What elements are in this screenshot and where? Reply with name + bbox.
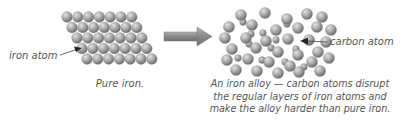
atom bbox=[82, 33, 93, 44]
atom bbox=[312, 46, 323, 57]
atom bbox=[121, 22, 132, 33]
atom bbox=[67, 22, 78, 33]
atom bbox=[103, 54, 114, 65]
atom bbox=[272, 67, 283, 78]
atom bbox=[114, 54, 125, 65]
atom bbox=[77, 22, 88, 33]
atom bbox=[316, 11, 327, 22]
atom bbox=[83, 12, 94, 23]
atom bbox=[146, 54, 157, 65]
atom bbox=[270, 24, 281, 35]
atom bbox=[281, 13, 292, 24]
atom bbox=[323, 52, 334, 63]
atom bbox=[88, 22, 99, 33]
iron-alloy-lattice bbox=[219, 7, 336, 78]
atom bbox=[314, 65, 325, 76]
atom bbox=[136, 33, 147, 44]
atom bbox=[251, 65, 262, 76]
iron-atom-label: iron atom bbox=[9, 50, 57, 62]
atom bbox=[87, 43, 98, 54]
atom bbox=[94, 12, 105, 23]
alloy-caption: An iron alloy — carbon atoms disrupt the… bbox=[203, 78, 397, 116]
atom bbox=[235, 55, 242, 62]
atom bbox=[125, 54, 136, 65]
atom bbox=[292, 49, 303, 60]
transition-arrow-icon bbox=[164, 27, 212, 46]
atom bbox=[126, 12, 137, 23]
atom bbox=[131, 22, 142, 33]
atom bbox=[98, 43, 109, 54]
atom bbox=[272, 46, 283, 57]
atom bbox=[120, 43, 131, 54]
atom bbox=[263, 56, 274, 67]
atom bbox=[105, 12, 116, 23]
carbon-atom-label: carbon atom bbox=[330, 36, 394, 48]
atom bbox=[259, 7, 270, 18]
atom bbox=[282, 33, 293, 44]
atom bbox=[306, 56, 317, 67]
atom bbox=[99, 22, 110, 33]
atom bbox=[116, 12, 127, 23]
pure-iron-lattice bbox=[62, 12, 158, 65]
atom bbox=[242, 53, 253, 64]
atom bbox=[72, 12, 83, 23]
atom bbox=[82, 54, 93, 65]
atom bbox=[126, 33, 137, 44]
atom bbox=[240, 32, 251, 43]
atom bbox=[136, 54, 147, 65]
atom bbox=[226, 43, 237, 54]
atom bbox=[223, 21, 234, 32]
atom bbox=[325, 24, 336, 35]
atom bbox=[141, 43, 152, 54]
atom bbox=[246, 19, 257, 30]
pure-iron-caption: Pure iron. bbox=[90, 78, 150, 90]
atom bbox=[131, 43, 142, 54]
atom bbox=[219, 32, 230, 43]
atom bbox=[62, 12, 73, 23]
atom bbox=[273, 37, 280, 44]
atom bbox=[115, 33, 126, 44]
atom bbox=[235, 9, 246, 20]
atom bbox=[72, 33, 83, 44]
atom bbox=[292, 22, 303, 33]
atom bbox=[301, 8, 312, 19]
atom bbox=[260, 35, 271, 46]
atom bbox=[109, 43, 120, 54]
atom bbox=[93, 33, 104, 44]
atom bbox=[311, 21, 322, 32]
atom bbox=[110, 22, 121, 33]
atom bbox=[92, 54, 103, 65]
atom bbox=[221, 54, 232, 65]
atom bbox=[230, 64, 241, 75]
atom bbox=[293, 66, 304, 77]
atom bbox=[250, 42, 261, 53]
atom bbox=[104, 33, 115, 44]
